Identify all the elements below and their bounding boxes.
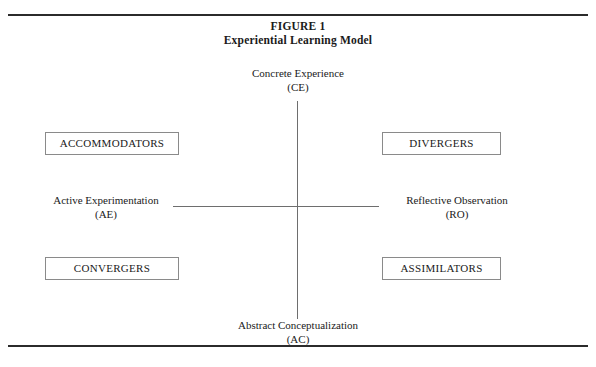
axis-top-abbr: (CE) [0, 80, 596, 94]
learning-style-label: DIVERGERS [409, 137, 473, 149]
axis-label-abstract-conceptualization: Abstract Conceptualization (AC) [0, 318, 596, 346]
figure-top-rule [8, 14, 588, 16]
learning-style-box-convergers: CONVERGERS [45, 257, 179, 280]
learning-style-label: CONVERGERS [74, 262, 150, 274]
learning-style-box-assimilators: ASSIMILATORS [382, 257, 501, 280]
axis-left-name: Active Experimentation [53, 194, 158, 206]
figure-number: FIGURE 1 [0, 20, 596, 34]
horizontal-axis-line [173, 206, 379, 207]
axis-label-active-experimentation: Active Experimentation (AE) [46, 193, 166, 221]
learning-style-label: ACCOMMODATORS [60, 137, 165, 149]
figure-caption: FIGURE 1 Experiential Learning Model [0, 20, 596, 47]
axis-right-abbr: (RO) [392, 207, 522, 221]
axis-top-name: Concrete Experience [252, 67, 344, 79]
axis-left-abbr: (AE) [46, 207, 166, 221]
learning-style-box-divergers: DIVERGERS [382, 132, 501, 155]
learning-style-box-accommodators: ACCOMMODATORS [45, 132, 179, 155]
axis-label-concrete-experience: Concrete Experience (CE) [0, 66, 596, 94]
axis-right-name: Reflective Observation [406, 194, 508, 206]
figure-title: Experiential Learning Model [0, 34, 596, 48]
learning-style-label: ASSIMILATORS [400, 262, 482, 274]
axis-bottom-name: Abstract Conceptualization [238, 319, 358, 331]
vertical-axis-line [297, 101, 298, 319]
axis-label-reflective-observation: Reflective Observation (RO) [392, 193, 522, 221]
axis-bottom-abbr: (AC) [0, 332, 596, 346]
